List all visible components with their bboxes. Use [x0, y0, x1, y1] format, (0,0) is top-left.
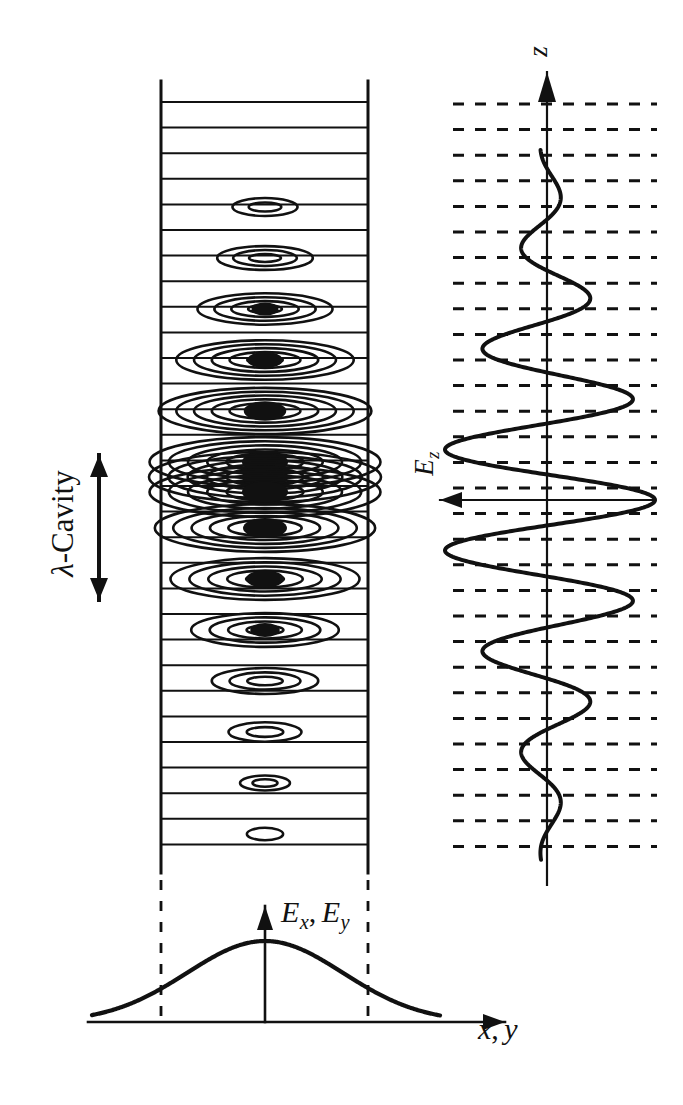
x-glyph: x: [478, 1012, 491, 1045]
lambda-glyph: λ: [45, 563, 80, 576]
contour-ellipse: [228, 722, 301, 741]
contour-lobe: [176, 340, 353, 380]
ez-base: E: [409, 459, 439, 476]
contour-lobe: [228, 722, 301, 741]
z-axis-label: z: [525, 46, 552, 57]
contour-lobe: [232, 198, 297, 216]
contour-core: [244, 401, 287, 420]
xy-comma: ,: [491, 1012, 499, 1045]
contour-ellipse: [249, 254, 281, 262]
contour-ellipse: [230, 672, 301, 689]
contour-lobe: [170, 558, 359, 600]
ey-base: E: [322, 895, 340, 928]
z-axis-arrowhead: [538, 72, 556, 102]
contour-lobe: [217, 246, 313, 270]
contour-group: [149, 198, 381, 840]
ey-subscript: y: [340, 911, 349, 933]
contour-lobe: [155, 504, 375, 552]
contour-ellipse: [247, 677, 283, 686]
cavity-extent-arrow: [90, 455, 108, 600]
cavity-arrow-head-down: [90, 578, 108, 600]
figure-canvas: [0, 0, 683, 1105]
exy-comma: ,: [309, 895, 317, 928]
contour-core: [246, 570, 284, 588]
ex-base: E: [281, 895, 299, 928]
cavity-mode-figure: λ-Cavity z Ez Ex,Ey x,y: [0, 0, 683, 1105]
contour-core: [242, 482, 288, 503]
contour-ellipse: [247, 828, 283, 840]
contour-lobe: [191, 613, 339, 647]
ez-field-label: Ez: [411, 452, 442, 476]
cavity-arrow-head-up: [90, 455, 108, 477]
contour-ellipse: [240, 776, 290, 791]
contour-ellipse: [232, 198, 297, 216]
contour-lobe: [197, 293, 332, 324]
contour-core: [243, 518, 287, 538]
contour-core: [251, 302, 278, 315]
contour-lobe: [240, 776, 290, 791]
contour-lobe: [212, 668, 319, 694]
lambda-cavity-label: λ-Cavity: [47, 444, 78, 604]
contour-ellipse: [247, 727, 284, 737]
contour-core: [247, 352, 282, 369]
ez-standing-wave-panel: [440, 72, 657, 885]
exy-axis-arrowhead: [257, 906, 273, 930]
contour-ellipse: [253, 779, 278, 787]
y-glyph: y: [504, 1012, 517, 1045]
ez-subscript: z: [423, 452, 443, 459]
contour-lobe: [159, 388, 372, 434]
ex-subscript: x: [300, 911, 309, 933]
contour-lobe: [150, 467, 381, 517]
contour-lobe: [247, 828, 283, 840]
cavity-contour-panel: [149, 81, 381, 873]
z-glyph: z: [523, 46, 553, 57]
xy-axis-label: x,y: [478, 1014, 518, 1044]
cavity-word: -Cavity: [45, 470, 80, 563]
contour-core: [250, 623, 280, 637]
ez-arrowhead: [440, 492, 462, 508]
contour-ellipse: [233, 250, 297, 266]
exy-field-label: Ex,Ey: [281, 897, 349, 932]
